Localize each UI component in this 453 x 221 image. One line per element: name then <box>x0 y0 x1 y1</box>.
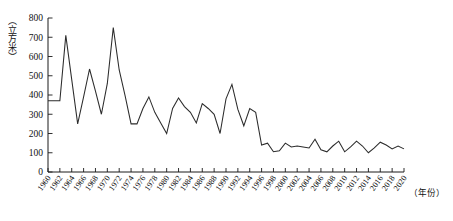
y-tick-label: 300 <box>29 110 44 120</box>
x-axis-title: （年份） <box>409 187 445 198</box>
y-tick-label: 200 <box>29 129 44 139</box>
y-tick-label: 800 <box>29 13 44 23</box>
y-axis-title: （立方米） <box>1 16 17 61</box>
y-axis-tick-labels: 0100200300400500600700800 <box>29 13 44 177</box>
y-tick-label: 0 <box>38 167 43 177</box>
y-tick-label: 500 <box>29 71 44 81</box>
y-tick-label: 700 <box>29 33 44 43</box>
x-axis-tick-labels: 1960196219641966196819701972197419761978… <box>36 174 409 193</box>
y-tick-label: 400 <box>29 90 44 100</box>
data-series-line <box>48 28 404 153</box>
line-chart-figure: （立方米） 0100200300400500600700800 19601962… <box>0 0 453 221</box>
y-tick-label: 600 <box>29 52 44 62</box>
x-tick-label: 2020 <box>392 174 409 193</box>
y-tick-label: 100 <box>29 148 44 158</box>
chart-canvas: 0100200300400500600700800 19601962196419… <box>0 0 453 221</box>
x-axis-tick-marks <box>48 168 404 172</box>
y-axis-tick-marks <box>48 18 53 172</box>
